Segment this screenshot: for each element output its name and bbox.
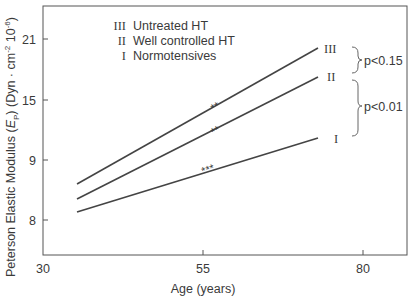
legend-label: Normotensives <box>133 49 216 63</box>
x-tick-label: 55 <box>196 262 210 276</box>
series-line-untreated-ht <box>77 48 318 184</box>
series-line-normotensives <box>77 138 318 212</box>
x-tick-label: 80 <box>356 262 370 276</box>
significance-stars: *** <box>200 161 216 176</box>
y-tick-label: 15 <box>22 94 36 108</box>
significance-stars: ** <box>208 99 222 114</box>
p-value-label: p<0.15 <box>364 54 403 68</box>
series-end-label: II <box>327 70 335 84</box>
chart: 21 15 9 8 30 55 80 Age (years) III Untre… <box>0 0 411 298</box>
series-end-label: I <box>334 132 338 146</box>
p-value-label: p<0.01 <box>364 100 403 114</box>
legend-numeral: I <box>122 49 126 63</box>
y-tick-label: 8 <box>29 214 36 228</box>
y-tick-label: 21 <box>22 33 36 47</box>
series-line-well-controlled-ht <box>77 77 318 199</box>
x-axis <box>203 250 363 255</box>
legend-numeral: III <box>114 19 127 33</box>
legend-label: Well controlled HT <box>133 34 235 48</box>
x-axis-label: Age (years) <box>171 282 236 296</box>
significance-stars: ** <box>209 123 223 138</box>
x-tick-label: 30 <box>36 262 50 276</box>
y-tick-label: 9 <box>29 154 36 168</box>
legend-label: Untreated HT <box>133 19 208 33</box>
y-axis-label: Peterson Elastic Modulus (EP) (Dyn · cm-… <box>3 14 19 280</box>
brace-ii-i <box>352 80 362 136</box>
series-end-label: III <box>324 42 337 56</box>
y-axis <box>43 39 48 220</box>
brace-iii-ii <box>352 47 362 73</box>
legend-numeral: II <box>118 34 126 48</box>
